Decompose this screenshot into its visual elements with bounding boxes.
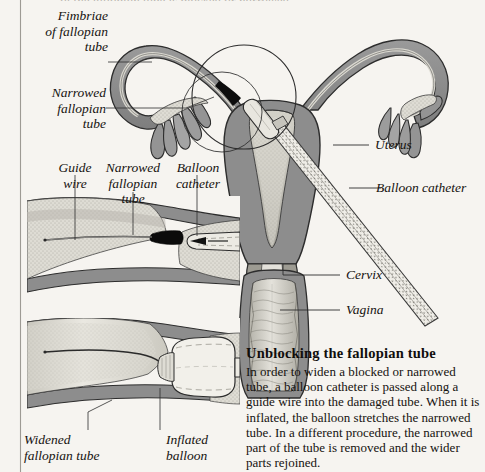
caption-block: Unblocking the fallopian tube In order t…: [246, 345, 482, 470]
label-cervix: Cervix: [346, 267, 426, 283]
caption-paragraph: In order to widen a blocked or narrowed …: [246, 364, 482, 470]
label-fimbriae: Fimbriae of fallopian tube: [18, 8, 108, 55]
label-inflated-balloon: Inflated balloon: [166, 432, 246, 463]
label-vagina: Vagina: [346, 302, 426, 318]
caption-heading: Unblocking the fallopian tube: [246, 345, 482, 362]
label-widened-fallopian-tube: Widened fallopian tube: [24, 432, 144, 463]
label-narrowed-fallopian-tube-upper: Narrowed fallopian tube: [18, 85, 106, 132]
label-uterus: Uterus: [375, 137, 465, 153]
label-balloon-catheter-panel: Balloon catheter: [158, 160, 238, 191]
figure-page: of the fallopian tube is blocked or narr…: [0, 0, 485, 472]
detail-panel-narrowed: [27, 196, 240, 304]
fimbriae-left: [150, 97, 211, 159]
label-balloon-catheter: Balloon catheter: [376, 180, 485, 196]
detail-panel-widened: [27, 318, 240, 420]
